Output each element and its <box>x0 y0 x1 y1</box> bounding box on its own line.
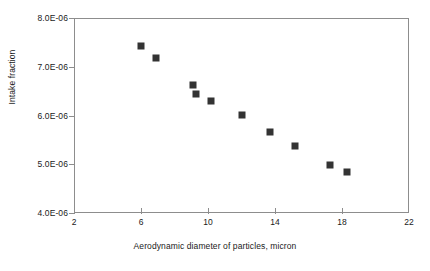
y-axis-tick-label: 4.0E-06 <box>4 208 68 218</box>
y-axis-tick-label: 5.0E-06 <box>4 159 68 169</box>
x-axis-tick-label: 10 <box>203 217 212 227</box>
data-point-marker <box>327 161 334 168</box>
data-point-marker <box>238 111 245 118</box>
data-point-marker <box>189 81 196 88</box>
data-point-marker <box>344 168 351 175</box>
y-axis-title: Intake fraction <box>7 17 17 137</box>
x-axis-tick-label: 14 <box>270 217 279 227</box>
x-axis-tick-label: 6 <box>139 217 144 227</box>
x-axis-tick-label: 22 <box>404 217 413 227</box>
plot-data-area <box>74 18 409 213</box>
data-point-marker <box>153 55 160 62</box>
scatter-chart: 4.0E-065.0E-066.0E-067.0E-068.0E-06 2610… <box>0 0 430 271</box>
data-point-marker <box>266 129 273 136</box>
data-point-marker <box>292 142 299 149</box>
x-axis-tick-label: 18 <box>337 217 346 227</box>
y-axis-tick-mark <box>69 213 75 214</box>
data-point-marker <box>138 43 145 50</box>
data-point-marker <box>208 97 215 104</box>
x-axis-title: Aerodynamic diameter of particles, micro… <box>0 241 430 251</box>
x-axis-tick-label: 2 <box>72 217 77 227</box>
data-point-marker <box>193 90 200 97</box>
